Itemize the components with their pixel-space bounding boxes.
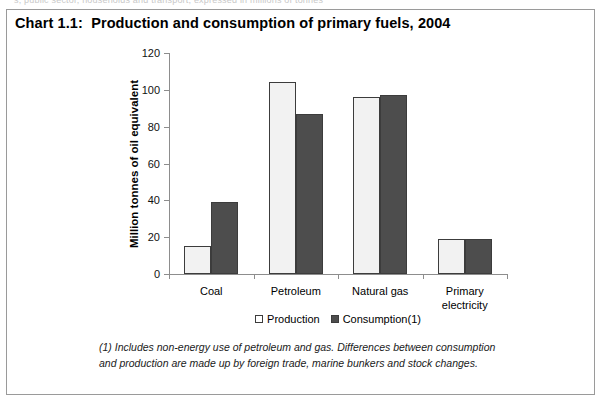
y-axis-tick (164, 53, 169, 54)
legend-swatch-consumption (331, 315, 339, 323)
x-axis-tick (507, 274, 508, 279)
y-axis-tick (164, 164, 169, 165)
bar-coal-consumption[interactable] (211, 202, 238, 274)
y-axis-label: 120 (142, 47, 160, 59)
y-axis-tick (164, 127, 169, 128)
bar-petroleum-consumption[interactable] (296, 114, 323, 274)
x-axis-tick (423, 274, 424, 279)
chart-footnote: (1) Includes non-energy use of petroleum… (99, 339, 507, 371)
chart-figure: Chart 1.1: Production and consumption of… (6, 9, 595, 395)
bar-primary-electricity-production[interactable] (438, 239, 465, 274)
x-axis-tick (254, 274, 255, 279)
y-axis-label: 0 (154, 268, 160, 280)
cut-off-text-strip: s, public sector, households and transpo… (0, 0, 602, 9)
y-axis-line (169, 53, 170, 275)
y-axis-label: 100 (142, 84, 160, 96)
legend-label-production: Production (267, 313, 320, 325)
cut-off-text: s, public sector, households and transpo… (14, 0, 323, 5)
chart-title: Chart 1.1: Production and consumption of… (15, 15, 451, 31)
bar-natural-gas-consumption[interactable] (380, 95, 407, 274)
x-axis-category-label: Primary electricity (410, 285, 520, 312)
y-axis-label: 40 (148, 194, 160, 206)
y-axis-label: 60 (148, 158, 160, 170)
legend-swatch-production (255, 315, 263, 323)
y-axis-tick (164, 237, 169, 238)
bar-coal-production[interactable] (184, 246, 211, 274)
legend-label-consumption: Consumption(1) (343, 313, 421, 325)
bar-primary-electricity-consumption[interactable] (465, 239, 492, 274)
y-axis-label: 20 (148, 231, 160, 243)
plot-area: 020406080100120CoalPetroleumNatural gasP… (169, 53, 507, 275)
y-axis-tick (164, 200, 169, 201)
y-axis-title: Million tonnes of oil equivalent (128, 53, 142, 275)
x-axis-tick (169, 274, 170, 279)
y-axis-label: 80 (148, 121, 160, 133)
legend-item-production: Production (255, 313, 320, 325)
chart-legend: Production Consumption(1) (169, 313, 507, 325)
x-axis-tick (338, 274, 339, 279)
legend-item-consumption: Consumption(1) (331, 313, 421, 325)
bar-petroleum-production[interactable] (269, 82, 296, 274)
y-axis-tick (164, 90, 169, 91)
bar-natural-gas-production[interactable] (353, 97, 380, 274)
